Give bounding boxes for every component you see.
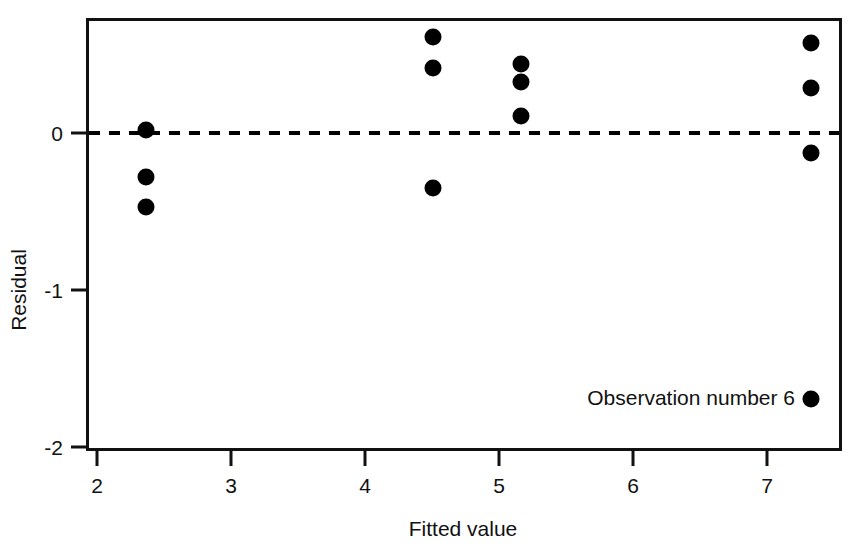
data-point bbox=[138, 169, 155, 186]
observation-annotation-label: Observation number 6 bbox=[587, 386, 795, 409]
x-tick-label-4: 4 bbox=[359, 474, 371, 497]
data-point bbox=[513, 56, 530, 73]
x-tick-label-5: 5 bbox=[493, 474, 505, 497]
observation-annotation-marker bbox=[803, 391, 820, 408]
x-axis-ticks bbox=[97, 450, 767, 466]
data-point bbox=[425, 29, 442, 46]
y-tick-label-0: 0 bbox=[51, 122, 63, 145]
x-axis-title: Fitted value bbox=[409, 517, 518, 540]
data-point bbox=[803, 80, 820, 97]
data-point bbox=[138, 122, 155, 139]
x-axis-tick-labels: 2 3 4 5 6 7 bbox=[91, 474, 773, 497]
data-point bbox=[513, 74, 530, 91]
y-axis-title: Residual bbox=[7, 249, 30, 331]
data-point bbox=[425, 60, 442, 77]
x-tick-label-7: 7 bbox=[761, 474, 773, 497]
y-axis-tick-labels: 0 -1 -2 bbox=[44, 122, 63, 459]
y-tick-label-neg1: -1 bbox=[44, 279, 63, 302]
data-point bbox=[803, 145, 820, 162]
x-tick-label-3: 3 bbox=[225, 474, 237, 497]
y-tick-label-neg2: -2 bbox=[44, 436, 63, 459]
observation-annotation: Observation number 6 bbox=[587, 386, 819, 409]
x-tick-label-2: 2 bbox=[91, 474, 103, 497]
plot-frame bbox=[88, 20, 841, 450]
data-point bbox=[138, 199, 155, 216]
y-axis-ticks bbox=[71, 133, 87, 447]
x-tick-label-6: 6 bbox=[627, 474, 639, 497]
data-point bbox=[425, 180, 442, 197]
data-point bbox=[513, 108, 530, 125]
residual-scatter-plot: 2 3 4 5 6 7 0 -1 -2 Residual Fitted valu… bbox=[0, 0, 858, 557]
data-point bbox=[803, 35, 820, 52]
chart-page: 2 3 4 5 6 7 0 -1 -2 Residual Fitted valu… bbox=[0, 0, 858, 557]
